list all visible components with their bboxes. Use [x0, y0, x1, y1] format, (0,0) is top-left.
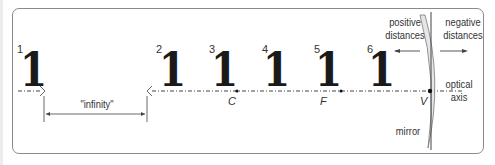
- negative-distances-line2: distances: [438, 29, 489, 42]
- vertex-dot: [428, 89, 432, 93]
- optical-axis-label-line1: optical: [438, 78, 481, 91]
- point-label-c: C: [228, 96, 236, 107]
- object-1: 1: [20, 47, 47, 93]
- point-label-f: F: [320, 96, 327, 107]
- positive-distances-line1: positive: [381, 16, 429, 29]
- object-4-index: 4: [262, 44, 268, 55]
- object-1-index: 1: [17, 44, 23, 55]
- arrow-right-icon: [462, 49, 468, 53]
- negative-distances-line1: negative: [438, 16, 489, 29]
- mirror-label: mirror: [391, 125, 425, 138]
- dimension-arrow-right-icon: [141, 112, 145, 116]
- dimension-arrow-left-icon: [46, 112, 50, 116]
- point-label-v: V: [420, 96, 427, 107]
- object-5-index: 5: [314, 44, 320, 55]
- object-2: 1: [159, 47, 186, 93]
- axis-break-arrow-left-icon: [147, 86, 152, 96]
- object-6-index: 6: [367, 44, 373, 55]
- object-2-index: 2: [156, 44, 162, 55]
- positive-distances-line2: distances: [381, 29, 429, 42]
- infinity-label: "infinity": [67, 98, 127, 111]
- optical-axis-label-line2: axis: [438, 91, 481, 104]
- object-3-index: 3: [209, 44, 215, 55]
